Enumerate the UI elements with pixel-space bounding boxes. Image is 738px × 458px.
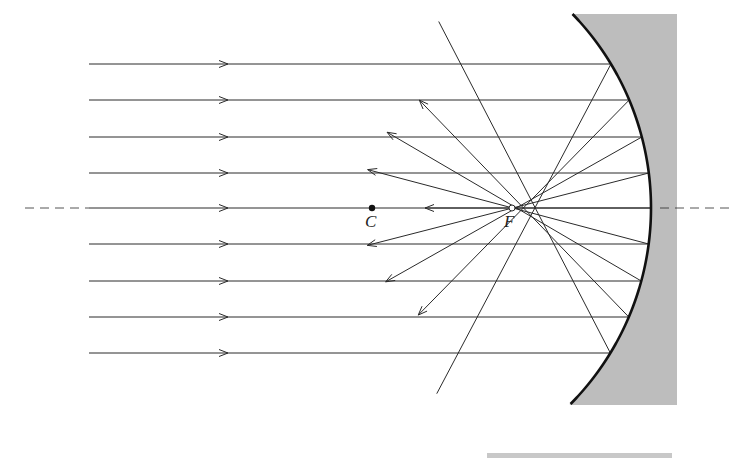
mirror-backing bbox=[570, 14, 677, 405]
reflected-ray bbox=[439, 22, 611, 353]
center-of-curvature-label: C bbox=[365, 212, 376, 232]
focal-point bbox=[509, 205, 515, 211]
reflected-ray bbox=[368, 170, 649, 244]
ray-arrow-icon bbox=[387, 132, 397, 140]
concave-mirror-diagram: C F bbox=[0, 0, 738, 458]
focal-point-label: F bbox=[504, 212, 514, 232]
reflected-ray bbox=[437, 64, 611, 394]
center-of-curvature-point bbox=[369, 205, 375, 211]
scale-bar bbox=[487, 453, 672, 458]
reflected-ray bbox=[367, 173, 648, 245]
